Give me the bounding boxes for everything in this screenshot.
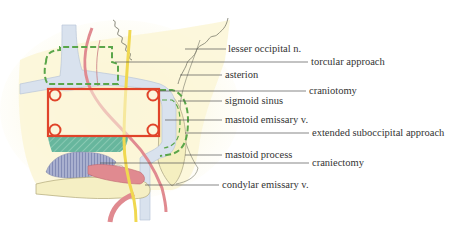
craniectomy-region	[48, 136, 128, 152]
label-lesser-occipital-nerve: lesser occipital n.	[228, 43, 301, 55]
anatomical-diagram	[0, 0, 465, 225]
label-craniectomy: craniectomy	[312, 157, 364, 169]
label-extended-suboccipital-approach: extended suboccipital approach	[312, 127, 444, 139]
burr-hole-bottom-left	[50, 125, 61, 136]
label-sigmoid-sinus: sigmoid sinus	[225, 95, 283, 107]
label-mastoid-emissary-vein: mastoid emissary v.	[225, 114, 308, 126]
burr-hole-top-right	[148, 90, 159, 101]
label-condylar-emissary-vein: condylar emissary v.	[222, 179, 309, 191]
craniotomy-outline	[48, 89, 159, 136]
burr-hole-bottom-right	[148, 125, 159, 136]
label-torcular-approach: torcular approach	[311, 56, 385, 68]
burr-hole-top-left	[50, 90, 61, 101]
label-craniotomy: craniotomy	[309, 85, 357, 97]
label-asterion: asterion	[225, 69, 258, 81]
label-mastoid-process: mastoid process	[225, 149, 292, 161]
